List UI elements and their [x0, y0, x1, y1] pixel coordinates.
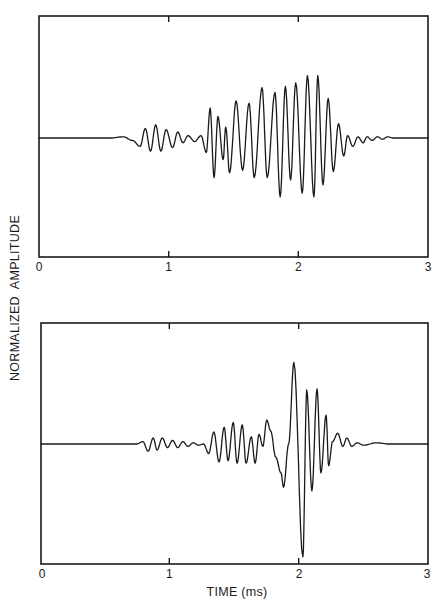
top-xtick-label-3: 3 — [425, 260, 432, 274]
top-xtick-label-1: 1 — [165, 260, 172, 274]
figure-canvas: 0 1 2 3 0 1 2 3 TIME (ms) NORMALIZED AMP… — [0, 0, 440, 606]
bottom-panel: 0 1 2 3 — [39, 323, 431, 581]
top-xtick-label-0: 0 — [36, 260, 43, 274]
bottom-xtick-label-1: 1 — [166, 567, 173, 581]
bottom-waveform-line — [41, 362, 428, 556]
top-xtick-label-2: 2 — [295, 260, 302, 274]
top-waveform-line — [39, 76, 428, 197]
bottom-xtick-label-3: 3 — [424, 567, 431, 581]
bottom-xtick-label-2: 2 — [296, 567, 303, 581]
top-panel: 0 1 2 3 — [36, 16, 432, 274]
y-axis-label: NORMALIZED AMPLITUDE — [8, 215, 22, 381]
x-axis-label: TIME (ms) — [206, 585, 267, 599]
bottom-xtick-label-0: 0 — [39, 567, 46, 581]
